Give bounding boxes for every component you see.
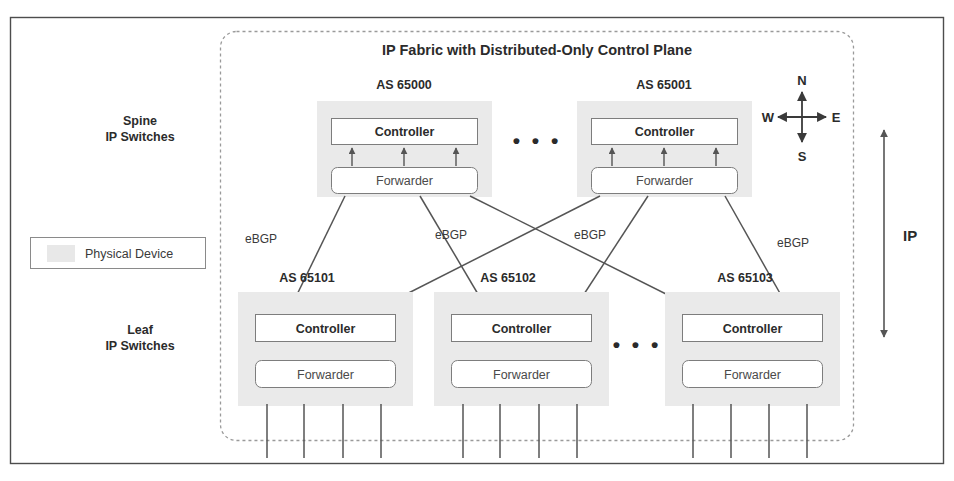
legend-label: Physical Device [85, 247, 173, 261]
spine-label-line2: IP Switches [105, 130, 174, 144]
leaf-device-1-forwarder-label: Forwarder [297, 368, 354, 382]
leaf-row-ellipsis: • • • [613, 333, 662, 356]
compass-east-label: E [832, 110, 841, 125]
diagram-title: IP Fabric with Distributed-Only Control … [382, 42, 692, 58]
spine-device-1-forwarder-label: Forwarder [376, 174, 433, 188]
ebgp-label-1: eBGP [245, 232, 277, 246]
legend-swatch [47, 245, 75, 262]
compass-south-label: S [798, 149, 807, 164]
leaf-device-1-as-label: AS 65101 [279, 271, 335, 285]
network-diagram: IP Fabric with Distributed-Only Control … [0, 0, 954, 481]
compass-north-label: N [797, 73, 806, 88]
leaf-device-1-chassis [238, 292, 413, 406]
ebgp-label-2: eBGP [435, 228, 467, 242]
legend-physical-device: Physical Device [31, 238, 206, 269]
spine-label-line1: Spine [123, 114, 157, 128]
spine-device-2-forwarder-label: Forwarder [636, 174, 693, 188]
ip-scope-label: IP [903, 227, 917, 244]
leaf-device-2-chassis [434, 292, 609, 406]
leaf-device-2-controller-label: Controller [492, 322, 552, 336]
spine-device-1-as-label: AS 65000 [376, 78, 432, 92]
spine-device-2-as-label: AS 65001 [636, 78, 692, 92]
leaf-label-line2: IP Switches [105, 339, 174, 353]
leaf-device-3-chassis [665, 292, 840, 406]
leaf-device-2-as-label: AS 65102 [480, 271, 536, 285]
leaf-device-3-controller-label: Controller [723, 322, 783, 336]
leaf-device-1-controller-label: Controller [296, 322, 356, 336]
ebgp-label-4: eBGP [777, 236, 809, 250]
leaf-device-2-forwarder-label: Forwarder [493, 368, 550, 382]
leaf-device-3-forwarder-label: Forwarder [724, 368, 781, 382]
compass-west-label: W [762, 110, 775, 125]
spine-device-2-controller-label: Controller [635, 125, 695, 139]
leaf-device-3-as-label: AS 65103 [717, 271, 773, 285]
leaf-label-line1: Leaf [127, 323, 154, 337]
figure-canvas: IP Fabric with Distributed-Only Control … [0, 0, 954, 481]
ebgp-label-3: eBGP [574, 228, 606, 242]
spine-row-ellipsis: • • • [513, 129, 562, 152]
spine-device-1-controller-label: Controller [375, 125, 435, 139]
